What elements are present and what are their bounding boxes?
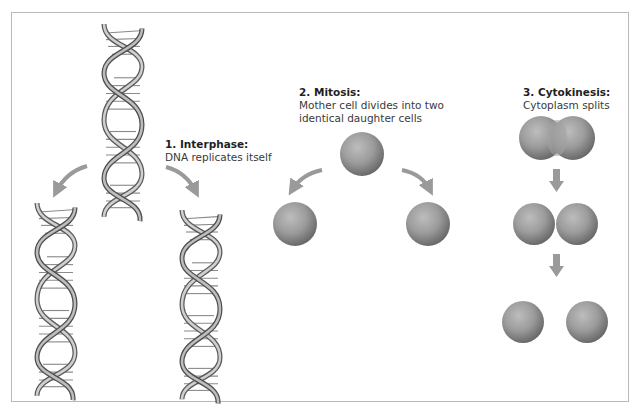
arrow-mitosis-left (292, 170, 322, 190)
arrow-cytokinesis-2 (549, 254, 564, 277)
cytokinesis-title: 3. Cytokinesis: (523, 86, 610, 99)
mitosis-description-line-2: identical daughter cells (299, 112, 444, 125)
arrow-dna-right (166, 167, 196, 192)
mother-cell (340, 132, 384, 176)
interphase-label: 1. Interphase: DNA replicates itself (165, 138, 272, 164)
cytokinesis-label: 3. Cytokinesis: Cytoplasm splits (523, 86, 610, 112)
cytokinesis-description: Cytoplasm splits (523, 99, 610, 112)
interphase-description: DNA replicates itself (165, 151, 272, 164)
interphase-title: 1. Interphase: (165, 138, 272, 151)
diagram-artwork (0, 0, 640, 411)
daughter-cell-left (273, 202, 317, 246)
mitosis-title: 2. Mitosis: (299, 86, 444, 99)
pinching-cell (519, 116, 595, 160)
mitosis-description-line-1: Mother cell divides into two (299, 99, 444, 112)
parent-dna-helix (104, 24, 142, 221)
separated-cells (502, 301, 608, 343)
mitosis-label: 2. Mitosis: Mother cell divides into two… (299, 86, 444, 125)
daughter-dna-helix-right (182, 210, 220, 404)
daughter-dna-helix-left (37, 203, 75, 400)
touching-cells (513, 203, 598, 245)
arrow-dna-left (56, 166, 87, 192)
arrow-mitosis-right (402, 170, 430, 190)
arrow-cytokinesis-1 (549, 169, 564, 192)
daughter-cell-right (406, 202, 450, 246)
